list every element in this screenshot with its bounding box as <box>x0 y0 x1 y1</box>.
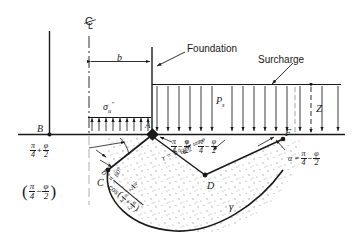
point-label-A: A <box>145 121 151 130</box>
r-exp-tail: tan φ <box>191 136 205 147</box>
centerline-l: L <box>88 22 93 31</box>
surcharge-leader <box>272 63 293 84</box>
centerline-symbol: CL <box>85 16 93 27</box>
angle-label-at-C: ( π 4 − φ 2 ) <box>22 182 56 202</box>
two-f: 2 <box>313 159 319 167</box>
label-width-b: b <box>117 53 122 63</box>
depth-dimension-z <box>295 87 311 133</box>
diagram-canvas <box>0 0 356 249</box>
angle-label-alpha-at-F: α = π 4 − φ 2 <box>288 150 320 168</box>
left-wall <box>47 31 51 137</box>
point-label-B: B <box>37 124 43 134</box>
point-label-D: D <box>207 181 214 191</box>
four-b: 4 <box>30 151 36 159</box>
label-foundation: Foundation <box>187 44 237 54</box>
two-m: 2 <box>211 147 217 155</box>
figure-root: { "figure": { "title": "Bearing capacity… <box>0 0 356 249</box>
alpha-eq: α = <box>288 155 300 163</box>
sigma-sub: u <box>108 107 111 114</box>
b0-leader <box>96 150 106 157</box>
label-sigma-u: σu″ <box>103 101 114 115</box>
two-c: 2 <box>42 192 49 201</box>
label-surcharge-pressure: Ps <box>216 96 225 109</box>
sigma-sup: ″ <box>111 100 114 108</box>
point-label-F: F <box>285 128 291 138</box>
two-b: 2 <box>43 151 49 159</box>
ps-sub: s <box>222 101 225 108</box>
label-surcharge: Surcharge <box>258 55 304 65</box>
label-depth-z: Z <box>316 103 322 114</box>
label-gamma: γ <box>229 201 233 212</box>
minus-f: − <box>308 155 313 163</box>
four-f: 4 <box>301 159 307 167</box>
r-eq-lead: r = b <box>161 148 179 162</box>
plus-b: + <box>37 147 42 155</box>
four-c: 4 <box>29 192 36 201</box>
footing-bearing-arrows <box>88 118 151 132</box>
foundation-leader <box>157 52 185 66</box>
surcharge-arrows <box>157 86 338 131</box>
minus-c: − <box>36 187 41 196</box>
angle-label-at-B: π 4 + φ 2 <box>30 142 49 160</box>
